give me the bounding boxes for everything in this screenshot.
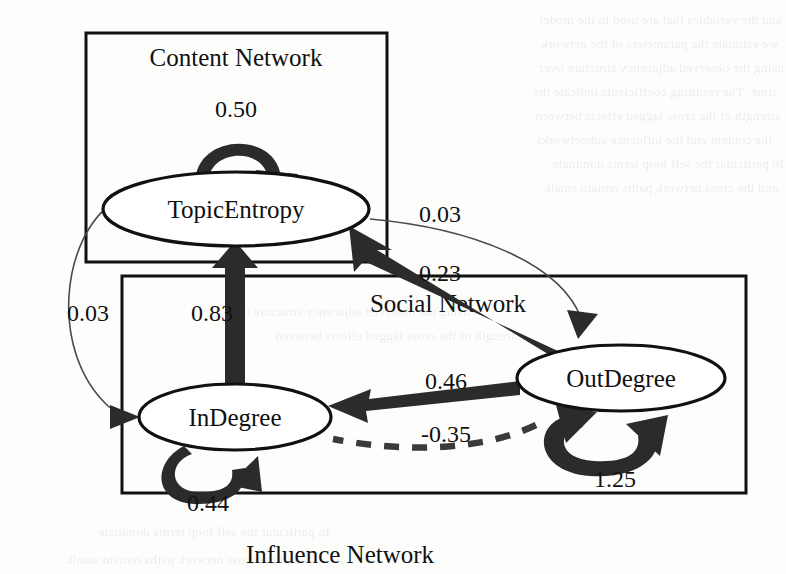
edge-label-outdegree-to-indegree: 0.46 [425,368,467,394]
edge-outdegree-to-indegree [328,381,520,423]
node-indegree[interactable]: InDegree [139,384,331,450]
node-outdegree-label: OutDegree [566,365,676,392]
edge-label-outdegree-to-indegree-negative: -0.35 [421,421,471,447]
edge-label-topicentropy-self: 0.50 [215,96,257,122]
edge-label-outdegree-to-topicentropy: 0.23 [419,260,461,286]
influence-network-label: Influence Network [246,541,435,568]
node-outdegree[interactable]: OutDegree [517,345,725,411]
node-topicentropy[interactable]: TopicEntropy [103,172,369,246]
edge-label-topicentropy-to-outdegree: 0.03 [419,201,461,227]
network-diagram: Content Network Social Network Influence… [0,0,786,574]
node-topicentropy-label: TopicEntropy [167,196,305,223]
edge-label-indegree-self: 0.44 [187,490,229,516]
node-indegree-label: InDegree [189,404,282,431]
figure-canvas: and the variables that are used in the m… [0,0,786,574]
edge-label-topicentropy-to-indegree: 0.03 [67,300,109,326]
edge-label-outdegree-self: 1.25 [594,466,636,492]
edge-label-indegree-to-topicentropy: 0.83 [191,300,233,326]
content-network-label: Content Network [150,44,323,71]
